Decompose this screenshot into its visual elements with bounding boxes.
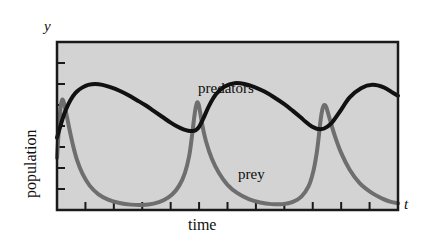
x-axis-title: time bbox=[188, 216, 216, 234]
x-axis-symbol: t bbox=[404, 196, 408, 213]
series-label-prey: prey bbox=[238, 166, 265, 183]
plot-canvas bbox=[0, 0, 427, 246]
series-label-predators: predators bbox=[198, 80, 254, 97]
predator-prey-chart: y t population time predators prey bbox=[0, 0, 427, 246]
y-axis-symbol: y bbox=[44, 18, 51, 35]
y-axis-title: population bbox=[22, 130, 40, 198]
